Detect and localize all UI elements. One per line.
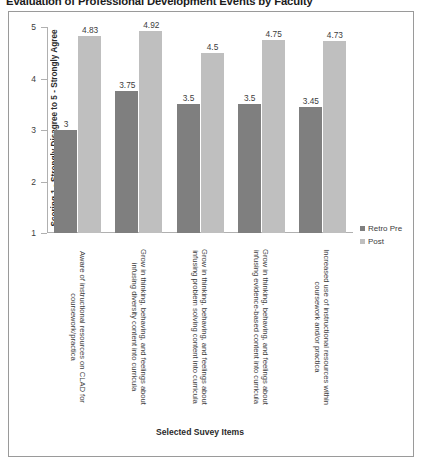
x-category-label: Grow in thinking, behaving, and feelings… xyxy=(191,236,210,418)
chart-legend: Retro Pre Post xyxy=(360,224,402,250)
legend-label-post: Post xyxy=(368,237,384,246)
x-category-label: Grow in thinking, behaving, and feelings… xyxy=(129,236,148,418)
plot-area: 34.833.754.923.54.53.54.753.454.73 xyxy=(47,27,352,233)
y-tick-label: 1 xyxy=(16,228,36,238)
bar-group: 34.83 xyxy=(54,27,101,233)
category-label-wrap: Aware of instructional resources on CLAD… xyxy=(54,236,102,422)
bar-pre[interactable] xyxy=(54,130,77,233)
x-category-label: Grow in thinking, behaving, and feelings… xyxy=(252,236,271,418)
legend-item-retro-pre[interactable]: Retro Pre xyxy=(360,224,402,233)
category-label-wrap: Grow in thinking, behaving, and feelings… xyxy=(176,236,224,422)
bar-group: 3.54.75 xyxy=(238,27,285,233)
x-category-label: Increased use of instructional resources… xyxy=(313,236,332,418)
y-tick-label: 2 xyxy=(16,177,36,187)
y-tick-mark xyxy=(41,233,47,234)
y-tick-label: 3 xyxy=(16,125,36,135)
x-category-label: Aware of instructional resources on CLAD… xyxy=(68,236,87,418)
category-label-wrap: Increased use of instructional resources… xyxy=(298,236,346,422)
bar-value-label: 4.75 xyxy=(257,29,291,39)
legend-swatch-retro-pre xyxy=(360,226,365,231)
bar-post[interactable] xyxy=(323,41,346,233)
bar-group: 3.54.5 xyxy=(177,27,224,233)
bar-post[interactable] xyxy=(78,36,101,233)
bar-post[interactable] xyxy=(139,31,162,233)
bar-pre[interactable] xyxy=(177,104,200,233)
y-tick-label: 5 xyxy=(16,22,36,32)
bar-group: 3.454.73 xyxy=(299,27,346,233)
bar-value-label: 4.83 xyxy=(73,25,107,35)
category-label-wrap: Grow in thinking, behaving, and feelings… xyxy=(115,236,163,422)
bar-value-label: 4.92 xyxy=(134,20,168,30)
legend-item-post[interactable]: Post xyxy=(360,237,402,246)
legend-label-retro-pre: Retro Pre xyxy=(368,224,402,233)
bar-pre[interactable] xyxy=(115,91,138,233)
bar-group: 3.754.92 xyxy=(115,27,162,233)
y-tick-label: 4 xyxy=(16,74,36,84)
category-label-wrap: Grow in thinking, behaving, and feelings… xyxy=(237,236,285,422)
x-axis-title: Selected Suvey Items xyxy=(47,427,353,437)
bar-pre[interactable] xyxy=(238,104,261,233)
bar-value-label: 4.5 xyxy=(196,42,230,52)
chart-title: Evaluation of Professional Development E… xyxy=(6,0,418,9)
bar-value-label: 4.73 xyxy=(318,30,352,40)
bar-post[interactable] xyxy=(262,40,285,233)
bar-post[interactable] xyxy=(201,53,224,233)
bar-pre[interactable] xyxy=(299,107,322,233)
legend-swatch-post xyxy=(360,239,365,244)
